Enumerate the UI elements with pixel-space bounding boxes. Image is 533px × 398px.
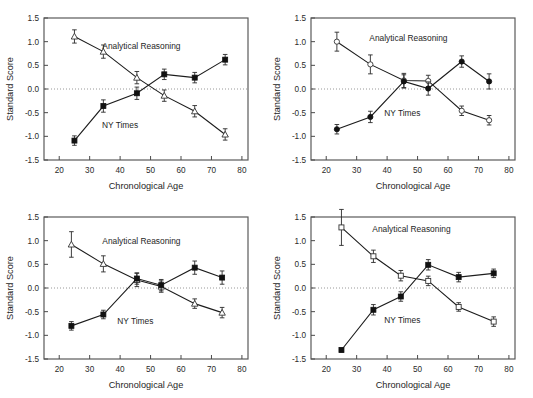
data-point-marker bbox=[371, 254, 376, 259]
y-tick-label: -1.5 bbox=[292, 156, 307, 165]
data-point-marker bbox=[491, 319, 496, 324]
y-tick-label: -1.5 bbox=[25, 355, 40, 364]
y-tick-label: -0.5 bbox=[25, 109, 40, 118]
x-tick-label: 80 bbox=[237, 365, 247, 374]
series-annotation-label: NY Times bbox=[102, 120, 138, 130]
x-tick-label: 50 bbox=[413, 166, 423, 175]
data-series bbox=[339, 260, 496, 353]
data-point-marker bbox=[159, 283, 164, 288]
x-tick-label: 30 bbox=[85, 365, 95, 374]
series-annotation-label: NY Times bbox=[117, 316, 153, 326]
y-tick-label: -0.5 bbox=[25, 308, 40, 317]
plot-canvas: -1.5-1.0-0.50.00.51.01.520304050607080Ch… bbox=[0, 199, 266, 398]
x-axis-title: Chronological Age bbox=[109, 380, 184, 390]
data-point-marker bbox=[459, 108, 464, 113]
data-point-marker bbox=[491, 271, 496, 276]
data-point-marker bbox=[71, 33, 77, 39]
data-point-marker bbox=[401, 79, 406, 84]
data-point-marker bbox=[223, 57, 228, 62]
data-point-marker bbox=[192, 75, 197, 80]
y-axis-title: Standard Score bbox=[5, 256, 15, 320]
series-line bbox=[341, 227, 493, 321]
x-tick-label: 50 bbox=[146, 365, 156, 374]
data-point-marker bbox=[192, 300, 198, 306]
plot-canvas: -1.5-1.0-0.50.00.51.01.520304050607080Ch… bbox=[267, 199, 533, 398]
y-axis-title: Standard Score bbox=[5, 57, 15, 121]
data-point-marker bbox=[192, 265, 197, 270]
x-tick-label: 50 bbox=[413, 365, 423, 374]
x-tick-label: 40 bbox=[383, 166, 393, 175]
y-axis-title: Standard Score bbox=[272, 256, 282, 320]
data-point-marker bbox=[134, 276, 139, 281]
x-tick-label: 20 bbox=[55, 365, 65, 374]
x-tick-label: 30 bbox=[85, 166, 95, 175]
series-line bbox=[337, 62, 489, 130]
y-tick-label: 1.0 bbox=[28, 237, 40, 246]
data-point-marker bbox=[68, 241, 74, 247]
data-point-marker bbox=[161, 92, 167, 98]
data-point-marker bbox=[162, 72, 167, 77]
y-tick-label: 1.5 bbox=[28, 14, 40, 23]
y-tick-label: 1.0 bbox=[28, 38, 40, 47]
x-tick-label: 70 bbox=[474, 166, 484, 175]
data-point-marker bbox=[334, 39, 339, 44]
x-tick-label: 60 bbox=[443, 365, 453, 374]
series-line bbox=[341, 265, 493, 350]
data-point-marker bbox=[368, 114, 373, 119]
y-tick-label: -1.0 bbox=[292, 331, 307, 340]
y-tick-label: -1.0 bbox=[292, 132, 307, 141]
data-point-marker bbox=[487, 79, 492, 84]
series-annotation-label: Analytical Reasoning bbox=[102, 236, 181, 246]
y-tick-label: 1.5 bbox=[28, 213, 40, 222]
y-tick-label: 0.0 bbox=[295, 85, 307, 94]
y-tick-label: 0.0 bbox=[295, 284, 307, 293]
y-tick-label: -0.5 bbox=[292, 308, 307, 317]
data-point-marker bbox=[459, 59, 464, 64]
data-point-marker bbox=[487, 118, 492, 123]
y-tick-label: 1.0 bbox=[295, 38, 307, 47]
y-tick-label: 1.5 bbox=[295, 213, 307, 222]
data-point-marker bbox=[426, 278, 431, 283]
x-tick-label: 70 bbox=[207, 365, 217, 374]
panel-bottom-left: -1.5-1.0-0.50.00.51.01.520304050607080Ch… bbox=[0, 199, 266, 398]
series-annotation-label: Analytical Reasoning bbox=[102, 41, 181, 51]
data-point-marker bbox=[426, 86, 431, 91]
x-tick-label: 70 bbox=[207, 166, 217, 175]
data-point-marker bbox=[398, 273, 403, 278]
data-point-marker bbox=[192, 108, 198, 114]
x-axis-title: Chronological Age bbox=[109, 181, 184, 191]
data-point-marker bbox=[339, 348, 344, 353]
x-tick-label: 40 bbox=[116, 166, 126, 175]
data-point-marker bbox=[398, 294, 403, 299]
panel-top-right: -1.5-1.0-0.50.00.51.01.520304050607080Ch… bbox=[267, 0, 533, 199]
y-tick-label: 0.5 bbox=[28, 260, 40, 269]
data-point-marker bbox=[339, 225, 344, 230]
y-axis-title: Standard Score bbox=[272, 57, 282, 121]
x-tick-label: 30 bbox=[352, 365, 362, 374]
data-series bbox=[334, 56, 491, 134]
data-series bbox=[72, 54, 228, 145]
y-tick-label: 1.0 bbox=[295, 237, 307, 246]
data-point-marker bbox=[101, 104, 106, 109]
x-tick-label: 60 bbox=[176, 166, 186, 175]
plot-canvas: -1.5-1.0-0.50.00.51.01.520304050607080Ch… bbox=[0, 0, 266, 199]
x-tick-label: 40 bbox=[116, 365, 126, 374]
y-tick-label: 0.5 bbox=[295, 61, 307, 70]
y-tick-label: 0.0 bbox=[28, 85, 40, 94]
data-point-marker bbox=[220, 275, 225, 280]
x-tick-label: 40 bbox=[383, 365, 393, 374]
y-tick-label: -1.5 bbox=[292, 355, 307, 364]
y-tick-label: 0.5 bbox=[295, 260, 307, 269]
series-line bbox=[74, 60, 225, 141]
series-line bbox=[71, 244, 222, 312]
x-tick-label: 30 bbox=[352, 166, 362, 175]
data-point-marker bbox=[72, 138, 77, 143]
data-point-marker bbox=[101, 312, 106, 317]
series-annotation-label: NY Times bbox=[384, 315, 420, 325]
x-tick-label: 70 bbox=[474, 365, 484, 374]
data-point-marker bbox=[134, 91, 139, 96]
x-tick-label: 20 bbox=[322, 166, 332, 175]
data-point-marker bbox=[371, 307, 376, 312]
data-point-marker bbox=[456, 275, 461, 280]
series-annotation-label: Analytical Reasoning bbox=[372, 224, 451, 234]
